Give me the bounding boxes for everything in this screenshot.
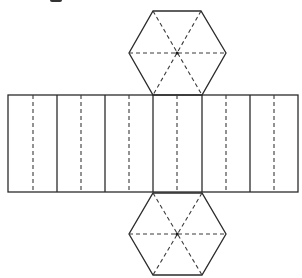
hexagonal-prism-net <box>0 0 302 278</box>
bottom-hexagon-center-dot <box>175 232 178 235</box>
lateral-faces <box>8 95 298 192</box>
top-hexagon <box>129 11 226 95</box>
top-hexagon-center-dot <box>175 51 178 54</box>
bottom-hexagon <box>129 193 226 275</box>
